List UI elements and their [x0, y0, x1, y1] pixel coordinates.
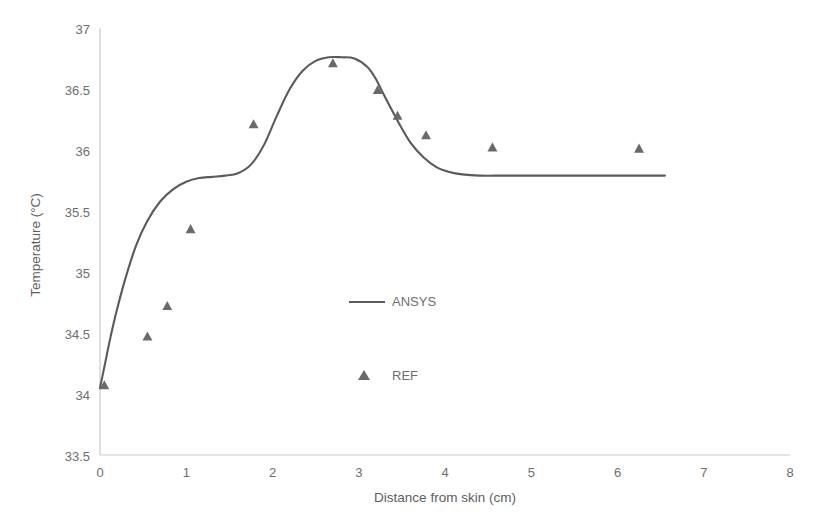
- data-point-marker: [186, 224, 196, 233]
- y-tick-label: 35.5: [65, 205, 90, 220]
- series-line-ansys: [100, 57, 665, 388]
- data-point-marker: [634, 144, 644, 153]
- chart-figure: Temperature (°C) 33.5 34 34.5 35 35.5 36…: [0, 0, 814, 527]
- y-tick-labels: 33.5 34 34.5 35 35.5 36 36.5 37: [65, 22, 90, 464]
- data-point-marker: [488, 142, 498, 151]
- x-axis-title: Distance from skin (cm): [374, 490, 516, 505]
- y-tick-label: 33.5: [65, 449, 90, 464]
- y-tick-label: 35: [76, 266, 90, 281]
- y-axis-title: Temperature (°C): [28, 193, 43, 297]
- x-tick-label: 3: [355, 465, 362, 480]
- chart-canvas: Temperature (°C) 33.5 34 34.5 35 35.5 36…: [0, 0, 814, 527]
- y-tick-label: 34: [76, 388, 90, 403]
- data-point-marker: [328, 58, 338, 67]
- y-tick-label: 37: [76, 22, 90, 37]
- x-tick-label: 5: [528, 465, 535, 480]
- x-tick-label: 7: [700, 465, 707, 480]
- y-tick-label: 36.5: [65, 83, 90, 98]
- x-tick-labels: 0 1 2 3 4 5 6 7 8: [96, 465, 793, 480]
- legend-label-ansys: ANSYS: [392, 294, 436, 309]
- data-point-marker: [162, 301, 172, 310]
- x-tick-label: 8: [786, 465, 793, 480]
- y-tick-label: 34.5: [65, 327, 90, 342]
- series-markers-ref: [99, 58, 644, 389]
- y-tick-label: 36: [76, 144, 90, 159]
- data-point-marker: [249, 119, 259, 128]
- data-point-marker: [421, 130, 431, 139]
- data-point-marker: [143, 331, 153, 340]
- x-tick-label: 6: [614, 465, 621, 480]
- x-tick-label: 4: [441, 465, 448, 480]
- x-tick-label: 1: [183, 465, 190, 480]
- legend-triangle-swatch: [358, 370, 370, 380]
- x-tick-label: 2: [269, 465, 276, 480]
- legend-label-ref: REF: [392, 368, 418, 383]
- x-tick-label: 0: [96, 465, 103, 480]
- legend: ANSYS REF: [349, 294, 436, 383]
